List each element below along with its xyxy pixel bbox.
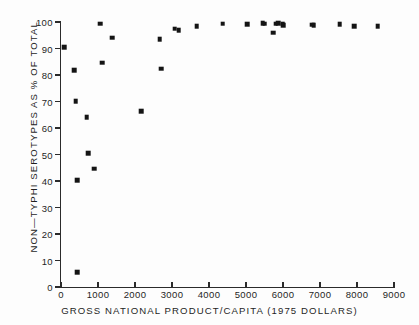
x-tick-label: 4000 [198, 289, 221, 300]
x-tick-label: 6000 [272, 289, 295, 300]
data-point [271, 30, 276, 35]
data-point [352, 24, 357, 29]
data-point [100, 61, 105, 66]
data-point [220, 22, 225, 27]
y-tick [55, 101, 60, 102]
data-point [92, 166, 97, 171]
x-tick-label: 5000 [235, 289, 258, 300]
y-tick [55, 207, 60, 208]
y-tick-label: 0 [22, 282, 53, 293]
y-tick [55, 154, 60, 155]
y-tick [55, 233, 60, 234]
data-point [337, 22, 342, 27]
plot-area [61, 22, 394, 287]
data-point [98, 21, 103, 26]
data-point [75, 178, 80, 183]
x-tick-label: 2000 [124, 289, 147, 300]
y-tick [55, 74, 60, 75]
x-axis-title: GROSS NATIONAL PRODUCT/CAPITA (1975 DOLL… [0, 305, 419, 316]
x-tick-label: 0 [58, 289, 64, 300]
x-tick-label: 7000 [309, 289, 332, 300]
data-point [245, 22, 250, 27]
x-tick-label: 9000 [383, 289, 406, 300]
x-tick-label: 1000 [87, 289, 110, 300]
data-point [281, 23, 286, 28]
y-tick-label: 10 [22, 255, 53, 266]
y-tick [55, 127, 60, 128]
data-point [139, 109, 144, 114]
x-tick-label: 3000 [161, 289, 184, 300]
data-point [157, 37, 162, 42]
data-point [110, 36, 115, 41]
data-point [72, 68, 77, 73]
data-point [159, 67, 164, 72]
data-point [62, 45, 67, 50]
y-tick [55, 48, 60, 49]
data-point [74, 99, 79, 104]
y-axis-title: NON—TYPHI SEROTYPES AS % OF TOTAL [28, 23, 39, 253]
data-point [176, 28, 181, 33]
y-tick [55, 180, 60, 181]
y-tick [55, 286, 60, 287]
x-tick-label: 8000 [346, 289, 369, 300]
data-point [375, 24, 380, 29]
y-tick [55, 260, 60, 261]
scatter-plot-figure: 0102030405060708090100 01000200030004000… [0, 0, 419, 325]
data-point [75, 270, 80, 275]
y-tick [55, 21, 60, 22]
data-point [85, 115, 90, 120]
data-point [262, 22, 267, 27]
data-point [311, 23, 316, 28]
data-point [194, 24, 199, 29]
data-point [86, 151, 91, 156]
